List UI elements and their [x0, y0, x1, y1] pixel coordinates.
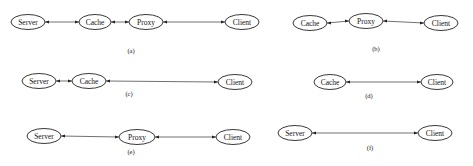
arrowhead-icon [125, 20, 129, 23]
edge-cache-proxy [327, 19, 349, 24]
arrowhead-icon [45, 20, 49, 23]
panel-caption: (c) [125, 90, 132, 98]
node-server: Server [27, 129, 61, 144]
arrowhead-icon [214, 80, 218, 83]
node-label: Proxy [357, 17, 375, 26]
edge-server-proxy [61, 134, 119, 138]
panel-caption: (e) [127, 148, 134, 156]
arrowhead-icon [221, 20, 225, 23]
node-label: Proxy [137, 18, 155, 27]
panel-e: ServerProxyClient(e) [27, 129, 250, 157]
node-label: Server [34, 132, 54, 141]
panel-caption: (a) [127, 47, 134, 55]
panel-c: ServerCacheClient(c) [22, 74, 252, 99]
panel-a: ServerCacheProxyClient(a) [11, 15, 259, 56]
node-cache: Cache [314, 75, 346, 90]
arrowhead-icon [345, 19, 349, 22]
arrowhead-icon [106, 79, 110, 82]
node-label: Server [29, 77, 49, 86]
arrowhead-icon [414, 131, 418, 134]
node-client: Client [424, 16, 458, 31]
node-label: Client [226, 78, 245, 87]
node-cache: Cache [79, 15, 111, 30]
arrowhead-icon [327, 21, 331, 24]
node-label: Client [233, 18, 252, 27]
node-cache: Cache [293, 16, 327, 31]
node-label: Client [224, 133, 243, 142]
arrowhead-icon [420, 21, 424, 24]
node-label: Client [426, 129, 445, 138]
node-label: Cache [301, 19, 320, 28]
edge-proxy-client [163, 20, 225, 23]
arrowhead-icon [68, 79, 72, 82]
arrowhead-icon [61, 134, 65, 137]
arrowhead-icon [111, 20, 115, 23]
arrowhead-icon [56, 79, 60, 82]
arrowhead-icon [75, 20, 79, 23]
node-client: Client [225, 15, 259, 30]
network-topology-diagram: ServerCacheProxyClient(a)CacheProxyClien… [0, 0, 473, 166]
arrowhead-icon [312, 131, 316, 134]
node-label: Cache [80, 77, 99, 86]
node-proxy: Proxy [129, 15, 163, 30]
node-client: Client [216, 130, 250, 145]
node-server: Server [22, 74, 56, 89]
edge-proxy-client [155, 135, 216, 138]
panel-caption: (f) [367, 144, 374, 152]
node-label: Proxy [128, 133, 146, 142]
edge-server-cache [45, 20, 79, 23]
node-label: Cache [321, 78, 340, 87]
edge-cache-proxy [111, 20, 129, 23]
arrowhead-icon [163, 20, 167, 23]
edge-server-client [312, 131, 418, 134]
edge-proxy-client [383, 19, 424, 24]
node-label: Server [18, 18, 38, 27]
node-label: Client [432, 19, 451, 28]
edge-cache-client [346, 80, 421, 83]
panel-f: ServerClient(f) [278, 126, 452, 153]
node-label: Client [428, 78, 447, 87]
arrowhead-icon [417, 80, 421, 83]
panel-caption: (b) [372, 45, 380, 53]
panel-b: CacheProxyClient(b) [293, 14, 458, 54]
node-cache: Cache [72, 74, 106, 89]
node-label: Cache [86, 18, 105, 27]
node-proxy: Proxy [349, 14, 383, 29]
edge-server-cache [56, 79, 72, 82]
arrowhead-icon [155, 135, 159, 138]
node-client: Client [218, 75, 252, 90]
arrowhead-icon [212, 135, 216, 138]
edge-cache-client [106, 79, 218, 83]
panel-d: CacheClient(d) [314, 75, 453, 101]
panel-caption: (d) [365, 92, 373, 100]
node-server: Server [278, 126, 312, 141]
arrowhead-icon [115, 135, 119, 138]
node-proxy: Proxy [119, 130, 155, 145]
arrowhead-icon [346, 80, 350, 83]
arrowhead-icon [383, 19, 387, 22]
node-server: Server [11, 15, 45, 30]
node-client: Client [421, 75, 453, 90]
node-label: Server [285, 129, 305, 138]
node-client: Client [418, 126, 452, 141]
